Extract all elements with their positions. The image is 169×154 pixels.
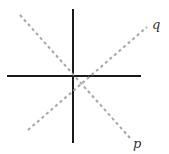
label-p: p (133, 136, 142, 151)
line-diagram: p q (0, 0, 169, 154)
label-q: q (152, 17, 160, 32)
